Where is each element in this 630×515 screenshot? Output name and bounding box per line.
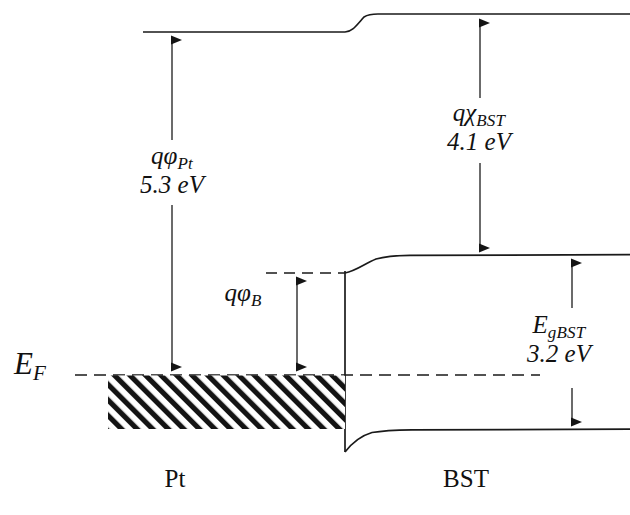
eg-bst-value: 3.2 eV <box>498 341 620 367</box>
eg-bst-symbol-e: E <box>533 311 548 338</box>
q-phi-b-symbol-phi: φ <box>237 279 251 306</box>
pt-filled-states-hatch <box>108 376 345 430</box>
q-phi-pt-symbol-q: q <box>151 142 164 169</box>
eg-bst-symbol-line: EgBST <box>498 312 620 341</box>
q-chi-bst-value: 4.1 eV <box>404 129 554 155</box>
energy-band-diagram-figure: qφPt 5.3 eV qχBST 4.1 eV qφB EgBST 3.2 e… <box>0 0 630 515</box>
eg-bst-subscript: gBST <box>548 323 586 342</box>
band-diagram-canvas <box>0 0 630 515</box>
q-phi-pt-label: qφPt 5.3 eV <box>108 143 236 198</box>
vacuum-level-line <box>143 14 630 32</box>
q-phi-b-subscript: B <box>251 291 262 310</box>
right-material-label: BST <box>416 466 516 492</box>
fermi-level-symbol-e: E <box>14 346 33 381</box>
q-phi-b-symbol-q: q <box>225 279 238 306</box>
q-phi-pt-subscript: Pt <box>177 154 193 173</box>
q-chi-bst-subscript: BST <box>476 111 505 130</box>
conduction-band-line <box>345 255 630 273</box>
fermi-level-subscript: F <box>33 361 46 385</box>
q-chi-bst-label: qχBST 4.1 eV <box>404 100 554 155</box>
left-material-label: Pt <box>140 466 210 492</box>
q-phi-b-symbol-line: qφB <box>200 280 286 309</box>
fermi-level-label: EF <box>14 348 78 385</box>
valence-band-line <box>345 429 630 452</box>
q-phi-b-label: qφB <box>200 280 286 309</box>
q-phi-pt-value: 5.3 eV <box>108 172 236 198</box>
q-chi-bst-symbol-chi: χ <box>465 99 476 126</box>
eg-bst-label: EgBST 3.2 eV <box>498 312 620 367</box>
q-chi-bst-symbol-line: qχBST <box>404 100 554 129</box>
q-chi-bst-symbol-q: q <box>453 99 466 126</box>
q-phi-pt-symbol-line: qφPt <box>108 143 236 172</box>
q-phi-pt-symbol-phi: φ <box>164 142 178 169</box>
